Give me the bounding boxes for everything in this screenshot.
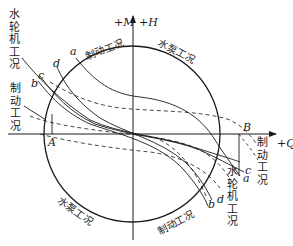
point-b-label: B — [243, 122, 251, 133]
dashed-curve-mid — [30, 116, 232, 182]
point-a-label: A — [48, 137, 56, 148]
dashed-curve-low — [40, 134, 220, 188]
dashed-curve-d — [160, 140, 206, 196]
curve-c-label: c — [38, 70, 44, 81]
region-label-braking-left: 制动工况 — [9, 83, 21, 133]
axis-label-q: +Q — [277, 138, 293, 149]
axis-label-h: +H — [139, 17, 158, 28]
curve-a-end-label: a — [243, 173, 250, 184]
region-label-braking-right: 制动工况 — [256, 137, 268, 187]
region-label-turbine-bottom-right: 水轮机工况 — [226, 166, 238, 229]
curve-b-label: b — [31, 78, 38, 89]
region-label-turbine-top-left: 水轮机工况 — [8, 9, 20, 72]
curve-a — [76, 58, 240, 176]
curve-b-end-label: b — [208, 199, 215, 210]
axis-label-m: +M — [114, 17, 134, 28]
curve-d-label: d — [53, 58, 60, 69]
curve-a-label: a — [70, 46, 77, 57]
braking-leader-line — [24, 106, 46, 120]
curve-d-end-label: d — [217, 194, 224, 205]
